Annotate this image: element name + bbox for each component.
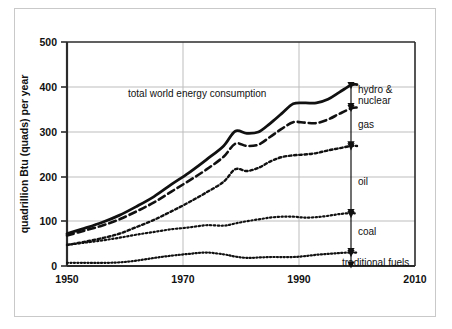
series-group [67,84,357,263]
x-tick-label-1950: 1950 [55,273,79,285]
x-tick-label-1970: 1970 [171,273,195,285]
series-total-world-energy [67,84,357,233]
annotation-label-hydro-nuclear-line2: nuclear [358,95,391,106]
annotation-label-gas: gas [358,119,374,130]
y-tick-label-400: 400 [39,81,57,93]
chart-svg: 500 400 300 200 100 0 quadrillion Btu (q… [0,0,452,329]
gridlines-vertical [183,42,299,266]
gridlines-horizontal [67,87,415,221]
annotation-label-traditional-fuels: traditional fuels [342,257,409,268]
y-tick-label-300: 300 [39,126,57,138]
y-tick-label-0: 0 [51,260,57,272]
annotation-label-coal: coal [358,226,376,237]
annotation-label-hydro-nuclear-line1: hydro & [358,84,393,95]
y-tick-label-200: 200 [39,171,57,183]
y-tick-label-100: 100 [39,215,57,227]
annotation-label-oil: oil [358,176,368,187]
x-tick-label-1990: 1990 [287,273,311,285]
series-traditional-fuels [67,253,357,263]
total-curve-label: total world energy consumption [128,88,266,99]
x-tick-label-2010: 2010 [403,273,427,285]
series-gas-boundary [67,146,357,245]
y-tick-label-500: 500 [39,36,57,48]
series-hydro-nuclear-boundary [67,107,357,235]
energy-consumption-chart: 500 400 300 200 100 0 quadrillion Btu (q… [0,0,452,329]
y-axis-title: quadrillion Btu (quads) per year [18,75,30,234]
